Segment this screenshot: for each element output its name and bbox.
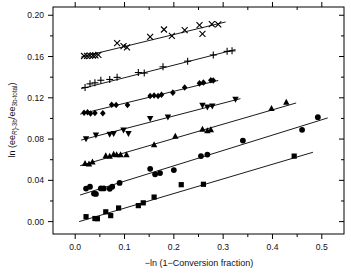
axis-frame — [53, 7, 344, 234]
data-point — [199, 31, 205, 37]
data-point — [117, 180, 123, 186]
data-point — [82, 84, 89, 91]
data-point — [113, 102, 119, 109]
data-point — [86, 80, 93, 87]
svg-text:ln (eeR)-3b/ee3b-total): ln (eeR)-3b/ee3b-total) — [7, 83, 19, 158]
data-point — [123, 151, 129, 157]
data-point — [292, 153, 297, 158]
y-tick-label: 0.00 — [27, 217, 44, 227]
data-point — [152, 171, 158, 177]
data-point — [161, 26, 167, 32]
data-point — [157, 170, 163, 176]
data-point — [141, 200, 146, 205]
x-tick-label: 0.4 — [267, 242, 279, 252]
y-tick-label: 0.04 — [27, 175, 44, 185]
data-point — [172, 133, 178, 139]
data-point — [101, 185, 107, 191]
data-point — [147, 166, 153, 172]
data-point — [184, 58, 191, 65]
y-tick-label: 0.16 — [27, 52, 44, 62]
fit-line-series-down-triangle — [81, 99, 240, 140]
data-point — [268, 105, 274, 111]
x-tick-label: 0.3 — [217, 242, 229, 252]
data-point — [152, 194, 157, 199]
x-tick-label: 0.5 — [316, 242, 328, 252]
data-point — [196, 22, 202, 28]
data-point — [159, 63, 166, 70]
x-tick-label: 0.0 — [69, 242, 81, 252]
y-tick-label: 0.12 — [27, 93, 44, 103]
data-point — [209, 21, 215, 27]
series-diamond — [81, 77, 216, 117]
data-point — [109, 184, 115, 190]
data-point — [170, 89, 176, 96]
data-point — [229, 47, 236, 54]
scatter-plot-figure: 0.00.10.20.30.40.5 0.000.040.080.120.160… — [0, 0, 351, 273]
data-point — [108, 213, 113, 218]
x-axis-label: −ln (1−Conversion fraction) — [145, 258, 254, 268]
x-tick-label: 0.2 — [168, 242, 180, 252]
data-point — [141, 70, 148, 77]
data-point — [179, 182, 184, 187]
data-point — [120, 127, 126, 133]
data-point — [165, 115, 171, 121]
data-point — [95, 216, 100, 221]
fit-lines-group — [79, 22, 328, 222]
data-point — [204, 152, 210, 158]
data-point — [93, 191, 99, 197]
y-tick-label: 0.20 — [27, 10, 44, 20]
data-point — [210, 51, 217, 58]
data-point — [171, 167, 177, 173]
data-point — [147, 34, 153, 40]
data-point — [116, 205, 121, 210]
data-point — [87, 184, 93, 190]
data-point — [315, 114, 321, 120]
data-point — [283, 99, 289, 105]
x-axis-ticks: 0.00.10.20.30.40.5 — [69, 2, 328, 252]
y-tick-label: 0.08 — [27, 134, 44, 144]
data-markers-group — [81, 21, 321, 221]
data-point — [198, 153, 204, 159]
data-point — [240, 138, 246, 144]
data-point — [100, 110, 106, 117]
data-point — [182, 84, 188, 91]
plot-canvas: 0.00.10.20.30.40.5 0.000.040.080.120.160… — [0, 0, 351, 273]
data-point — [114, 40, 120, 46]
y-axis-label: ln (eeR)-3b/ee3b-total) — [7, 83, 19, 158]
data-point — [299, 127, 305, 133]
data-point — [103, 209, 108, 214]
y-axis-ticks: 0.000.040.080.120.160.20 — [27, 10, 344, 226]
data-point — [136, 203, 141, 208]
data-point — [83, 214, 88, 219]
data-point — [201, 182, 206, 187]
x-tick-label: 0.1 — [119, 242, 131, 252]
data-point — [151, 141, 157, 147]
data-point — [125, 131, 131, 137]
data-point — [199, 126, 205, 132]
